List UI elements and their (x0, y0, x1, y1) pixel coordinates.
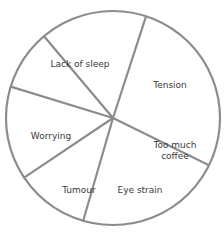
slice-label-worrying: Worrying (31, 131, 71, 141)
slice-label-too-much-coffee-line1: Too much (153, 140, 197, 150)
pie-chart: Lack of sleep Tension Worrying Too much … (0, 0, 224, 233)
slice-label-too-much-coffee-line2: coffee (161, 151, 189, 161)
slice-label-lack-of-sleep: Lack of sleep (50, 59, 109, 69)
slice-label-tumour: Tumour (61, 185, 96, 195)
slice-label-eye-strain: Eye strain (117, 185, 162, 195)
slice-label-tension: Tension (152, 80, 187, 90)
